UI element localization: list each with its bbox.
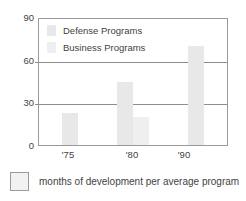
x-tick-label-75: '75 (62, 149, 74, 161)
y-tick-label-60: 60 (4, 56, 34, 66)
y-axis-labels: 90 60 30 0 (0, 18, 34, 146)
legend-swatch-defense-icon (47, 25, 56, 36)
x-tick-label-90: '90 (178, 149, 190, 161)
chart-legend: Defense Programs Business Programs (47, 23, 145, 57)
bar-chart-figure: 90 60 30 0 Defense Programs Business Pro… (0, 0, 246, 201)
x-tick-label-80: '80 (126, 149, 138, 161)
legend-swatch-business-icon (47, 42, 56, 53)
bar-defense-90 (188, 46, 204, 145)
y-tick-label-90: 90 (4, 13, 34, 23)
bar-defense-75 (62, 113, 78, 145)
legend-entry-business: Business Programs (47, 40, 145, 55)
plot-area: Defense Programs Business Programs (38, 18, 228, 146)
bar-business-80 (133, 117, 149, 145)
caption-text: months of development per average progra… (39, 176, 239, 188)
bar-defense-80 (117, 82, 133, 145)
y-tick-label-0: 0 (4, 141, 34, 151)
chart-caption: months of development per average progra… (10, 172, 239, 191)
caption-swatch-icon (10, 172, 29, 191)
legend-label-business: Business Programs (63, 42, 145, 53)
legend-entry-defense: Defense Programs (47, 23, 145, 38)
legend-label-defense: Defense Programs (63, 25, 142, 36)
y-tick-label-30: 30 (4, 98, 34, 108)
x-axis-labels: '75 '80 '90 (38, 149, 228, 163)
clipped-chart-title (30, 0, 210, 7)
